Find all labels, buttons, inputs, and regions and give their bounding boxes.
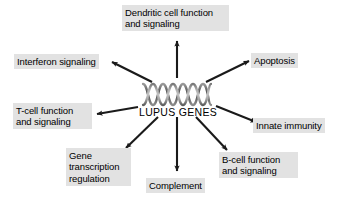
arrow-to-gene bbox=[126, 117, 158, 148]
arrow-to-tcell bbox=[97, 107, 138, 114]
node-gene-transcription-regulation: Gene transcription regulation bbox=[66, 148, 131, 186]
lupus-genes-diagram: LUPUS GENES Dendritic cell function and … bbox=[0, 0, 348, 204]
arrow-to-bcell bbox=[196, 117, 227, 150]
arrow-to-apoptosis bbox=[206, 61, 249, 82]
arrow-to-interferon bbox=[112, 62, 152, 82]
node-tcell-function: T-cell function and signaling bbox=[13, 103, 92, 129]
dna-double-helix-icon bbox=[141, 82, 213, 107]
center-label: LUPUS GENES bbox=[133, 106, 223, 118]
node-interferon-signaling: Interferon signaling bbox=[14, 54, 99, 69]
node-bcell-function: B-cell function and signaling bbox=[219, 152, 298, 178]
node-apoptosis: Apoptosis bbox=[251, 53, 298, 68]
node-complement: Complement bbox=[146, 178, 205, 193]
node-dendritic-cell-function: Dendritic cell function and signaling bbox=[122, 5, 229, 31]
node-innate-immunity: Innate immunity bbox=[253, 118, 325, 133]
